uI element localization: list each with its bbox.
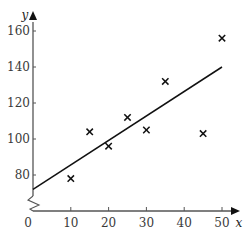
x-tick-label: 10	[63, 216, 78, 230]
x-axis-arrow-icon	[231, 207, 240, 215]
y-tick-label: 160	[7, 24, 30, 38]
scatter-chart: 8010012014016010203040500yx	[0, 0, 245, 234]
x-tick-label: 40	[177, 216, 192, 230]
data-point-x-marker	[143, 127, 149, 133]
y-tick-label: 100	[7, 132, 30, 146]
data-point-x-marker	[124, 114, 130, 120]
y-tick-label: 140	[7, 60, 30, 74]
data-point-x-marker	[219, 35, 225, 41]
data-point-x-marker	[162, 78, 168, 84]
x-tick-label: 30	[139, 216, 154, 230]
origin-label: 0	[24, 216, 32, 230]
x-axis-title: x	[236, 216, 243, 230]
y-axis-arrow-icon	[29, 11, 37, 20]
regression-line	[33, 67, 222, 189]
y-tick-label: 120	[7, 96, 30, 110]
data-point-x-marker	[200, 130, 206, 136]
axes	[28, 11, 240, 215]
data-point-x-marker	[68, 175, 74, 181]
data-points	[68, 35, 226, 182]
data-point-x-marker	[87, 129, 93, 135]
y-axis-title: y	[21, 8, 29, 22]
x-tick-label: 50	[214, 216, 229, 230]
x-tick-label: 20	[101, 216, 116, 230]
regression-line-path	[33, 67, 222, 189]
data-point-x-marker	[105, 143, 111, 149]
y-axis-break	[28, 196, 39, 211]
y-tick-label: 80	[15, 168, 30, 182]
